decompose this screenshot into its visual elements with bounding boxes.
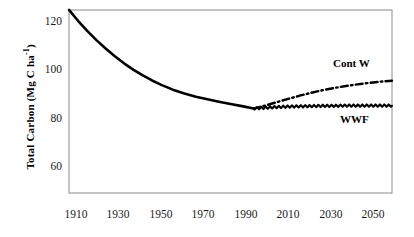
series-line-historical [69, 10, 254, 109]
plot-frame [69, 10, 392, 193]
series-layer [69, 10, 392, 110]
series-line-wwf [254, 104, 392, 109]
chart-figure: Total Carbon (Mg C ha-1) 120 100 80 60 1… [0, 0, 414, 237]
chart-canvas [0, 0, 414, 237]
